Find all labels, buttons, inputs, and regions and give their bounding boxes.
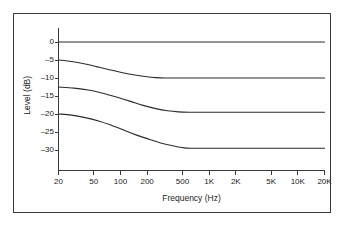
x-tick-label: 20K [309, 178, 341, 186]
y-tick-label: –25 [24, 128, 54, 136]
x-tick-label: 200 [131, 178, 163, 186]
series-line-curve-minus12p5-to-minus19p5 [59, 87, 325, 112]
y-tick-label: –30 [24, 146, 54, 154]
x-tick-label: 2K [220, 178, 252, 186]
chart-figure: 0–5–10–15–20–25–30 20501002005001K2K5K10… [0, 0, 346, 229]
series-line-curve-minus20-to-minus29p5 [59, 114, 325, 148]
y-tick-label: 0 [24, 38, 54, 46]
y-axis-title: Level (dB) [23, 65, 32, 125]
series-line-curve-minus5-to-minus10 [59, 60, 325, 78]
axis-ticks [55, 42, 325, 175]
data-series-group [59, 42, 325, 148]
axes-group [59, 28, 325, 171]
x-tick-label: 20 [43, 178, 75, 186]
y-tick-label: –5 [24, 56, 54, 64]
x-axis-title: Frequency (Hz) [132, 194, 252, 203]
